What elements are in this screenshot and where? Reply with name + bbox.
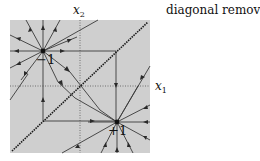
x1-axis-label: x1 xyxy=(155,79,167,93)
x2-symbol: x xyxy=(73,3,80,17)
phase-diagram xyxy=(0,0,260,161)
x1-subscript: 1 xyxy=(162,86,167,95)
x2-subscript: 2 xyxy=(80,10,85,19)
caption: diagonal removed xyxy=(166,3,260,17)
source-label: −1 xyxy=(36,52,55,67)
x1-symbol: x xyxy=(155,79,162,93)
sink-label: +1 xyxy=(108,123,127,138)
x2-axis-label: x2 xyxy=(73,3,85,17)
